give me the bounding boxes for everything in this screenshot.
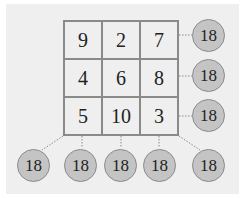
column-2-sum: 18 <box>104 149 137 182</box>
column-3-sum: 18 <box>143 149 176 182</box>
cell-r2c3[interactable]: 8 <box>140 59 178 97</box>
row-1-sum: 18 <box>192 19 225 52</box>
magic-square-grid: 9 2 7 4 6 8 5 10 3 <box>63 20 179 136</box>
cell-r3c1[interactable]: 5 <box>64 97 102 135</box>
cell-r1c3[interactable]: 7 <box>140 21 178 59</box>
row-2-sum: 18 <box>192 59 225 92</box>
cell-r1c1[interactable]: 9 <box>64 21 102 59</box>
cell-r3c3[interactable]: 3 <box>140 97 178 135</box>
column-1-sum: 18 <box>64 149 97 182</box>
anti-diagonal-sum: 18 <box>17 149 50 182</box>
cell-r2c1[interactable]: 4 <box>64 59 102 97</box>
row-3-sum: 18 <box>192 99 225 132</box>
cell-r1c2[interactable]: 2 <box>102 21 140 59</box>
cell-r2c2[interactable]: 6 <box>102 59 140 97</box>
main-diagonal-sum: 18 <box>192 149 225 182</box>
cell-r3c2[interactable]: 10 <box>102 97 140 135</box>
